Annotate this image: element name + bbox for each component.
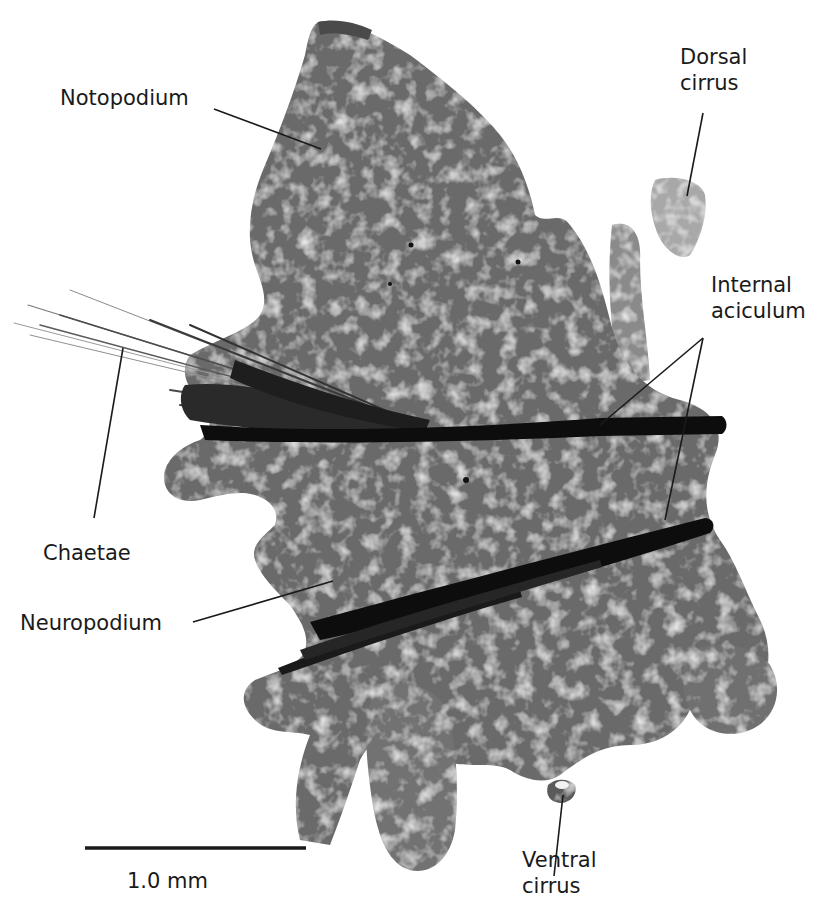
dorsal-cirrus-tissue bbox=[609, 178, 705, 385]
label-notopodium: Notopodium bbox=[60, 85, 189, 111]
label-dorsal-cirrus-line1: Dorsal bbox=[680, 44, 747, 70]
label-chaetae: Chaetae bbox=[43, 540, 131, 566]
scale-bar-label: 1.0 mm bbox=[127, 868, 208, 894]
label-neuropodium: Neuropodium bbox=[20, 610, 162, 636]
label-ventral-cirrus-line1: Ventral bbox=[522, 847, 597, 873]
label-ventral-cirrus: Ventral cirrus bbox=[522, 847, 597, 899]
ventral-cirrus-highlight bbox=[555, 781, 569, 789]
label-internal-aciculum-line2: aciculum bbox=[711, 298, 806, 324]
label-internal-aciculum-line1: Internal bbox=[711, 272, 806, 298]
chaetae-leader bbox=[94, 348, 123, 518]
micrograph-figure: Notopodium Dorsal cirrus Internal acicul… bbox=[0, 0, 822, 907]
label-dorsal-cirrus: Dorsal cirrus bbox=[680, 44, 747, 96]
body-tissue bbox=[164, 21, 777, 871]
label-ventral-cirrus-line2: cirrus bbox=[522, 873, 597, 899]
label-dorsal-cirrus-line2: cirrus bbox=[680, 70, 747, 96]
specimen-image bbox=[0, 0, 822, 907]
label-internal-aciculum: Internal aciculum bbox=[711, 272, 806, 324]
